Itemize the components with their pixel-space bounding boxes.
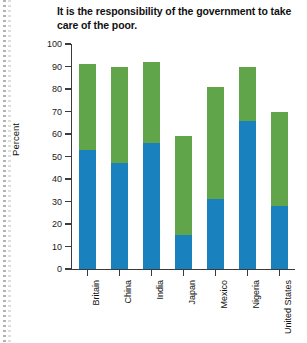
bar-segment-mostly-agree <box>79 64 96 150</box>
bar-india <box>143 44 160 269</box>
chart-title: It is the responsibility of the governme… <box>57 5 297 32</box>
y-axis-tick-label: 100 <box>36 39 62 49</box>
bar-britain <box>79 44 96 269</box>
bar-segment-mostly-agree <box>175 136 192 235</box>
bar-segment-mostly-agree <box>143 62 160 143</box>
bar-segment-mostly-agree <box>111 67 128 164</box>
bar-segment-completely-agree <box>207 199 224 269</box>
x-axis-tick <box>183 270 184 276</box>
x-axis-label-mexico: Mexico <box>219 280 229 309</box>
y-axis-tick-label: 20 <box>36 219 62 229</box>
x-axis-label-china: China <box>123 280 133 304</box>
x-axis-tick <box>151 270 152 276</box>
bar-segment-completely-agree <box>271 206 288 269</box>
bar-china <box>111 44 128 269</box>
x-axis-label-india: India <box>155 280 165 300</box>
bar-segment-completely-agree <box>79 150 96 269</box>
bar-japan <box>175 44 192 269</box>
plot-area <box>71 44 295 269</box>
bar-segment-mostly-agree <box>207 87 224 200</box>
chart-figure: It is the responsibility of the governme… <box>0 0 307 343</box>
x-axis-tick <box>247 270 248 276</box>
bar-segment-mostly-agree <box>271 112 288 207</box>
x-axis-label-united-states: United States <box>283 280 293 334</box>
x-axis-label-japan: Japan <box>187 280 197 305</box>
x-axis-tick <box>119 270 120 276</box>
y-axis-tick-label: 70 <box>36 107 62 117</box>
x-axis-tick <box>87 270 88 276</box>
bar-segment-completely-agree <box>111 163 128 269</box>
bar-segment-completely-agree <box>143 143 160 269</box>
y-axis-tick-label: 50 <box>36 152 62 162</box>
y-axis-tick-label: 80 <box>36 84 62 94</box>
y-axis-tick-label: 40 <box>36 174 62 184</box>
bar-segment-completely-agree <box>239 121 256 270</box>
y-axis-tick-label: 10 <box>36 242 62 252</box>
x-axis-label-britain: Britain <box>91 280 101 306</box>
bar-segment-completely-agree <box>175 235 192 269</box>
y-axis-tick-label: 60 <box>36 129 62 139</box>
y-axis-tick-label: 30 <box>36 197 62 207</box>
y-axis-tick-label: 0 <box>36 264 62 274</box>
bar-nigeria <box>239 44 256 269</box>
x-axis-tick <box>279 270 280 276</box>
x-axis-label-nigeria: Nigeria <box>251 280 261 309</box>
bar-segment-mostly-agree <box>239 67 256 121</box>
bar-united-states <box>271 44 288 269</box>
y-axis-tick-label: 90 <box>36 62 62 72</box>
y-axis-title: Percent <box>10 105 21 175</box>
bar-mexico <box>207 44 224 269</box>
x-axis-tick <box>215 270 216 276</box>
